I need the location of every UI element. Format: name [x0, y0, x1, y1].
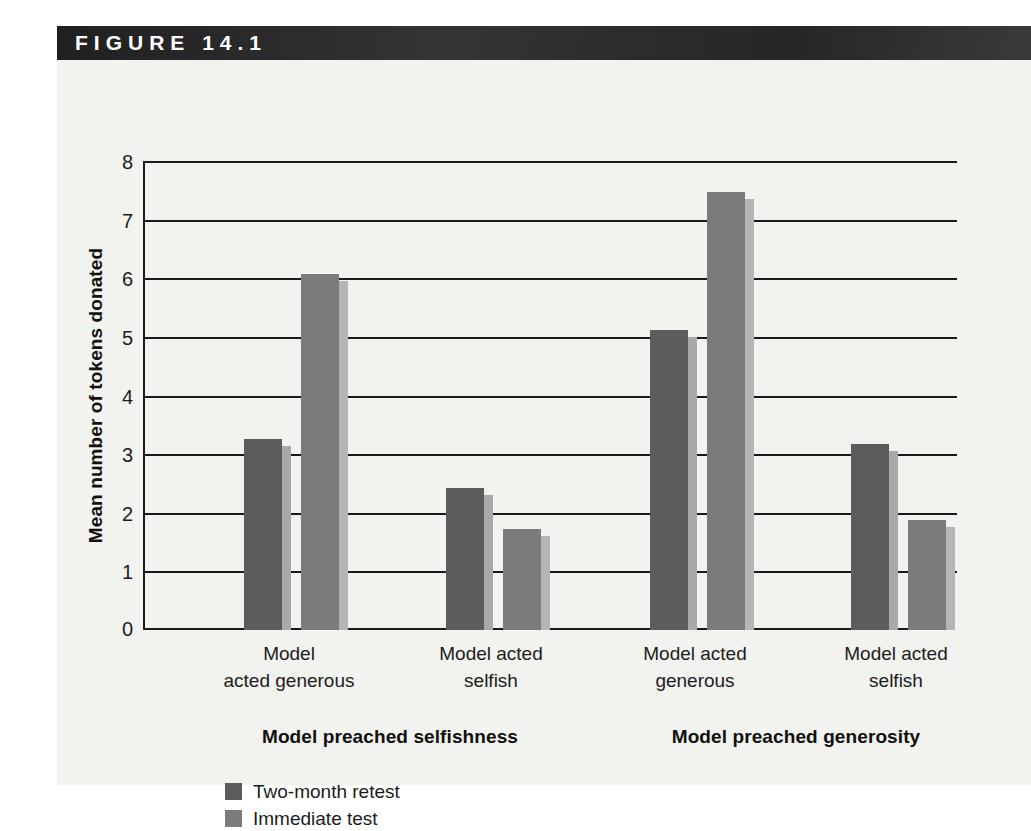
x-axis-group-label: Modelacted generous — [194, 640, 384, 694]
x-axis-group-label: Model actedgenerous — [600, 640, 790, 694]
x-axis-label-line: selfish — [801, 667, 991, 694]
figure-header-bar: FIGURE 14.1 — [57, 26, 1031, 60]
bar-side-shadow — [282, 446, 291, 630]
bar — [908, 520, 946, 630]
y-tick-label: 4 — [122, 386, 133, 409]
bars-group — [145, 161, 957, 630]
bar-side-shadow — [339, 281, 348, 630]
panel-label: Model preached generosity — [586, 724, 1006, 750]
bar-face — [446, 488, 484, 630]
bar — [446, 488, 484, 630]
x-axis-labels: Modelacted generousModel actedselfishMod… — [143, 640, 955, 710]
x-axis-label-line: acted generous — [194, 667, 384, 694]
y-tick-label: 1 — [122, 561, 133, 584]
bar-face — [503, 529, 541, 630]
y-tick-label: 5 — [122, 327, 133, 350]
y-tick-label: 6 — [122, 268, 133, 291]
bar-side-shadow — [745, 199, 754, 631]
x-axis-label-line: Model acted — [396, 640, 586, 667]
y-tick-label: 2 — [122, 503, 133, 526]
x-axis-group-label: Model actedselfish — [396, 640, 586, 694]
plot-frame: 012345678 — [143, 161, 955, 630]
figure-root: FIGURE 14.1 Mean number of tokens donate… — [0, 0, 1031, 831]
bar — [650, 330, 688, 630]
bar-face — [650, 330, 688, 630]
y-tick-label: 7 — [122, 210, 133, 233]
bar — [503, 529, 541, 630]
chart-area: Mean number of tokens donated 012345678 … — [57, 60, 1031, 785]
bar — [301, 274, 339, 630]
legend-swatch — [225, 810, 242, 827]
bar-side-shadow — [541, 536, 550, 630]
x-axis-label-line: selfish — [396, 667, 586, 694]
bar-side-shadow — [889, 451, 898, 630]
legend-label: Two-month retest — [253, 780, 400, 804]
y-tick-label: 0 — [122, 618, 133, 641]
bar-face — [908, 520, 946, 630]
figure-number-label: FIGURE 14.1 — [75, 33, 267, 53]
panel-group-labels: Model preached selfishnessModel preached… — [143, 724, 955, 758]
bar-face — [851, 444, 889, 630]
x-axis-label-line: generous — [600, 667, 790, 694]
x-axis-label-line: Model — [194, 640, 384, 667]
x-axis-label-line: Model acted — [600, 640, 790, 667]
x-axis-group-label: Model actedselfish — [801, 640, 991, 694]
chart-legend: Two-month retestImmediate test — [225, 778, 625, 831]
bar — [851, 444, 889, 630]
bar-face — [301, 274, 339, 630]
legend-item: Two-month retest — [225, 778, 625, 805]
legend-item: Immediate test — [225, 805, 625, 831]
y-axis-title: Mean number of tokens donated — [83, 161, 109, 630]
legend-label: Immediate test — [253, 807, 378, 831]
panel-label: Model preached selfishness — [180, 724, 600, 750]
bar — [244, 439, 282, 630]
legend-swatch — [225, 783, 242, 800]
y-tick-label: 3 — [122, 444, 133, 467]
bar-face — [707, 192, 745, 631]
y-tick-label: 8 — [122, 151, 133, 174]
bar — [707, 192, 745, 631]
bar-side-shadow — [688, 337, 697, 630]
x-axis-label-line: Model acted — [801, 640, 991, 667]
bar-face — [244, 439, 282, 630]
bar-side-shadow — [946, 527, 955, 630]
bar-side-shadow — [484, 495, 493, 630]
figure-panel: FIGURE 14.1 Mean number of tokens donate… — [57, 26, 1031, 785]
